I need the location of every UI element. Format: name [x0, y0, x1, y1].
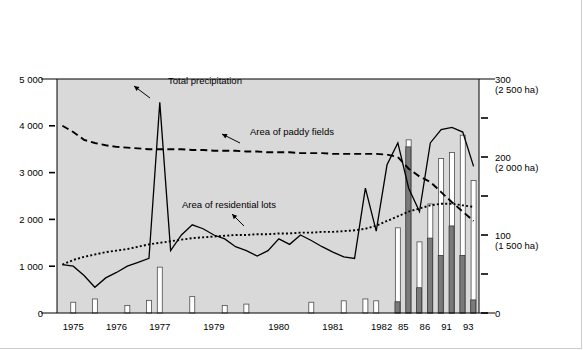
bar-below-floor: [146, 300, 151, 313]
bar-below-floor: [341, 301, 346, 313]
bar-below-floor: [222, 306, 227, 313]
bar-above-floor: [427, 238, 432, 313]
bar-above-floor: [449, 226, 454, 313]
bar-below-floor: [157, 267, 162, 313]
bar-below-floor: [92, 299, 97, 313]
y-tick-sublabel-right: (2 500 ha): [495, 84, 538, 95]
x-tick-label: 1980: [268, 321, 289, 332]
y-tick-label-left: 0: [38, 308, 43, 319]
annotation-area-residential-lots: Area of residential lots: [182, 199, 276, 210]
x-tick-label: 85: [398, 321, 409, 332]
bar-below-floor: [363, 299, 368, 313]
y-tick-sublabel-right: (1 500 ha): [495, 240, 538, 251]
plot-area: [57, 79, 479, 313]
x-tick-label: 1977: [149, 321, 170, 332]
annotation-total-precipitation: Total precipitation: [168, 75, 242, 86]
flood-precipitation-chart: 5 0004 0003 0002 0001 0000300(2 500 ha)2…: [0, 0, 583, 350]
bar-above-floor: [395, 302, 400, 313]
plot-layer: 5 0004 0003 0002 0001 0000300(2 500 ha)2…: [19, 74, 538, 333]
bar-above-floor: [438, 255, 443, 313]
y-tick-sublabel-right: (2 000 ha): [495, 162, 538, 173]
x-tick-label: 1975: [63, 321, 84, 332]
bar-below-floor: [471, 181, 476, 313]
bar-above-floor: [460, 255, 465, 313]
y-tick-label-right: 0: [495, 308, 500, 319]
y-tick-label-left: 1 000: [19, 261, 43, 272]
y-tick-label-left: 3 000: [19, 167, 43, 178]
bar-below-floor: [190, 297, 195, 313]
x-tick-label: 1981: [322, 321, 343, 332]
y-tick-label-right: 200: [495, 152, 511, 163]
bar-below-floor: [374, 301, 379, 313]
y-tick-label-right: 300: [495, 74, 511, 85]
annotation-area-paddy-fields: Area of paddy fields: [250, 126, 334, 137]
bar-below-floor: [395, 228, 400, 313]
x-tick-label: 91: [441, 321, 452, 332]
x-tick-label: 93: [463, 321, 474, 332]
bar-below-floor: [244, 304, 249, 313]
bar-above-floor: [406, 147, 411, 313]
x-tick-label: 1979: [203, 321, 224, 332]
x-tick-label: 1982: [371, 321, 392, 332]
y-tick-label-left: 5 000: [19, 74, 43, 85]
bar-below-floor: [125, 306, 130, 313]
y-tick-label-left: 4 000: [19, 120, 43, 131]
x-tick-label: 86: [420, 321, 431, 332]
y-tick-label-left: 2 000: [19, 214, 43, 225]
x-tick-label: 1976: [106, 321, 127, 332]
bar-below-floor: [71, 302, 76, 313]
bar-below-floor: [309, 302, 314, 313]
bar-above-floor: [417, 288, 422, 313]
bar-above-floor: [471, 300, 476, 313]
y-tick-label-right: 100: [495, 230, 511, 241]
